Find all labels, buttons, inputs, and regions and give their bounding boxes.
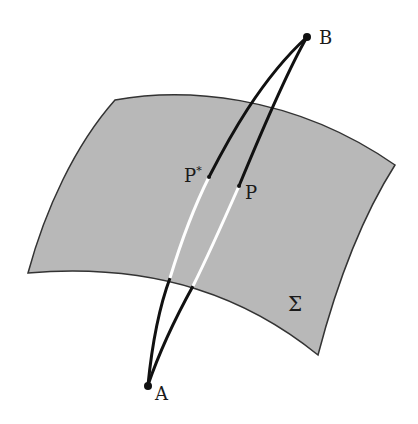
curve-pstar-lower	[148, 278, 170, 385]
label-A: A	[154, 383, 169, 404]
label-B: B	[319, 27, 332, 48]
label-P-star-sup: *	[196, 164, 202, 177]
point-B	[303, 33, 311, 41]
surface-sigma	[28, 95, 395, 355]
point-A	[144, 382, 152, 390]
label-sigma: Σ	[288, 292, 302, 316]
point-P	[237, 184, 241, 188]
diagram-canvas: B A P P* Σ	[0, 0, 418, 424]
label-P: P	[245, 182, 257, 203]
label-P-star-base: P	[184, 165, 196, 186]
point-P-star	[207, 175, 211, 179]
